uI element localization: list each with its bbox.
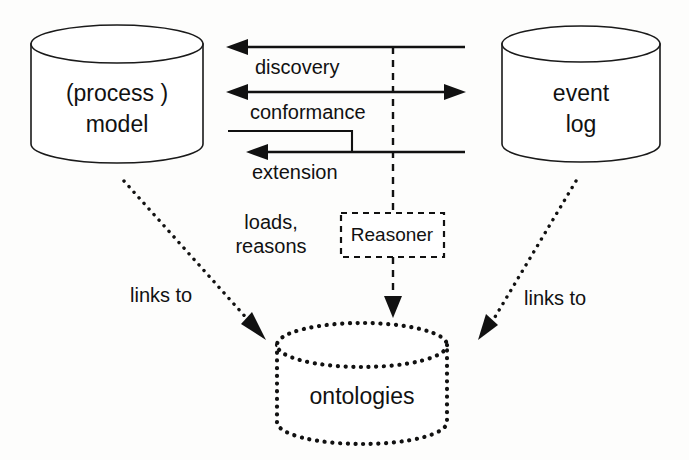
event-log-top <box>502 26 660 62</box>
node-event-log[interactable]: event log <box>502 26 660 162</box>
edge-label-extension: extension <box>252 161 338 183</box>
edge-conformance[interactable]: conformance <box>226 84 466 123</box>
edge-label-links-to-left: links to <box>130 284 192 306</box>
loads-reasons-line2: reasons <box>235 235 306 257</box>
node-ontologies[interactable]: ontologies <box>277 323 447 444</box>
process-model-label-line2: model <box>86 111 149 137</box>
loads-reasons-line1: loads, <box>244 211 297 233</box>
edge-extension[interactable]: extension <box>228 131 465 183</box>
ontologies-top <box>277 323 447 367</box>
edge-links-to-left[interactable]: links to <box>124 181 266 340</box>
diagram-canvas: (process ) model event log discovery con… <box>0 0 689 460</box>
edge-links-to-right[interactable]: links to <box>478 181 586 340</box>
process-mining-diagram: (process ) model event log discovery con… <box>0 0 689 460</box>
node-process-model[interactable]: (process ) model <box>31 25 203 163</box>
event-log-label-line1: event <box>553 80 610 106</box>
reasoner-label: Reasoner <box>351 224 434 245</box>
edge-label-conformance: conformance <box>250 101 366 123</box>
extension-arrowhead-left <box>246 144 268 160</box>
node-reasoner[interactable]: Reasoner <box>341 213 444 257</box>
conformance-arrowhead-left <box>226 84 248 100</box>
edge-label-links-to-right: links to <box>524 287 586 309</box>
ontologies-label: ontologies <box>310 383 415 409</box>
edge-label-discovery: discovery <box>255 56 339 78</box>
event-log-label-line2: log <box>566 111 597 137</box>
process-model-top <box>31 25 203 63</box>
extension-bracket <box>228 131 352 152</box>
conformance-arrowhead-right <box>444 84 466 100</box>
edge-reasoner-to-ontologies[interactable] <box>384 257 402 318</box>
reasoner-out-arrowhead <box>384 296 402 318</box>
process-model-label-line1: (process ) <box>66 80 168 106</box>
edge-label-loads-reasons: loads, reasons <box>235 211 306 257</box>
discovery-arrowhead-left <box>226 39 248 55</box>
edge-discovery[interactable]: discovery <box>226 39 465 78</box>
